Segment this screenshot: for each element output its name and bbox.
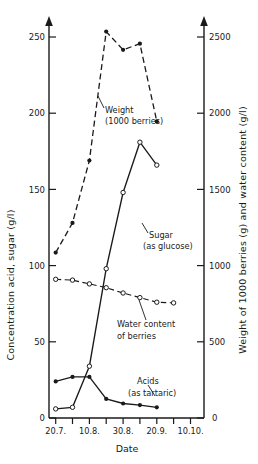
left-y-ticks (49, 37, 56, 418)
right-tick-label: 0 (212, 413, 217, 423)
series-weight (54, 30, 159, 255)
right-tick-label: 1000 (209, 261, 231, 271)
x-tick-label: 10.10. (177, 426, 203, 436)
left-tick-label: 250 (29, 32, 45, 42)
series-sugar (54, 140, 160, 411)
left-axis-arrow (45, 16, 53, 26)
annotation-water-line2: of berries (117, 331, 156, 341)
right-axis-title: Weight of 1000 berries (g) and water con… (237, 106, 248, 354)
x-axis-title: Date (116, 443, 139, 454)
right-y-ticks (197, 37, 204, 418)
right-tick-label: 2500 (209, 32, 231, 42)
left-tick-label: 0 (40, 413, 45, 423)
series-water-content-markers (54, 277, 176, 305)
series-weight-markers (54, 30, 159, 255)
berry-ripening-chart: 0 50 100 150 200 250 0 500 1000 1500 200… (0, 0, 258, 464)
annotation-sugar-line2: (as glucose) (143, 241, 193, 251)
annotation-acids-line2: (as tartaric) (128, 388, 176, 398)
series-water-content-line (56, 279, 174, 303)
x-tick-labels: 20.7. 10.8. 30.8. 20.9. 10.10. (45, 426, 203, 436)
right-tick-label: 500 (209, 337, 225, 347)
annotation-sugar-line1: Sugar (149, 230, 174, 240)
x-tick-label: 20.9. (146, 426, 167, 436)
annotation-water-line1: Water content (117, 319, 176, 329)
annotation-weight-line2: (1000 berries) (105, 116, 163, 126)
left-y-tick-labels: 0 50 100 150 200 250 (29, 32, 45, 423)
water-leader-line (139, 300, 146, 320)
chart-figure: 0 50 100 150 200 250 0 500 1000 1500 200… (0, 0, 258, 464)
series-water-content (54, 277, 176, 305)
left-tick-label: 200 (29, 108, 45, 118)
sugar-leader-line (142, 223, 148, 233)
series-sugar-line (56, 142, 157, 409)
x-tick-label: 30.8. (113, 426, 134, 436)
x-tick-label: 20.7. (45, 426, 66, 436)
annotation-water: Water content of berries (117, 319, 176, 341)
right-tick-label: 2000 (209, 108, 231, 118)
right-axis-arrow (200, 16, 208, 26)
annotation-weight-line1: Weight (105, 105, 134, 115)
weight-leader-line (98, 96, 104, 108)
x-ticks (56, 418, 191, 424)
left-tick-label: 150 (29, 185, 45, 195)
right-y-tick-labels: 0 500 1000 1500 2000 2500 (209, 32, 231, 423)
x-tick-label: 10.8. (79, 426, 100, 436)
annotation-acids: Acids (as tartaric) (128, 376, 176, 398)
left-tick-label: 100 (29, 261, 45, 271)
right-tick-label: 1500 (209, 185, 231, 195)
series-sugar-markers (54, 140, 160, 411)
left-axis-title: Concentration acid, sugar (g/l) (5, 209, 16, 360)
annotation-acids-line1: Acids (137, 376, 159, 386)
annotation-sugar: Sugar (as glucose) (143, 230, 193, 251)
left-tick-label: 50 (34, 337, 45, 347)
